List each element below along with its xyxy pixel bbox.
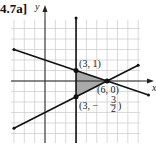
vertex-point — [74, 94, 79, 99]
vertex-point — [105, 79, 110, 84]
figure-title: 4.7a] — [0, 1, 27, 16]
lower-boundary-arrow-start-icon — [12, 127, 15, 130]
vertical-boundary-arrow-start-icon — [75, 143, 78, 144]
x-axis-label: x — [151, 82, 156, 93]
upper-boundary-arrow-end-icon — [147, 93, 150, 96]
lower-boundary-arrow-end-icon — [137, 64, 140, 67]
fraction-denominator: 2 — [111, 103, 116, 114]
inequality-graph: 4.7a] (3, 1)(6, 0)(3, −32) x y — [0, 0, 156, 143]
vertex-label: (3, 1) — [79, 58, 101, 70]
y-axis-label: y — [34, 1, 40, 12]
y-axis-arrow-icon — [43, 5, 48, 12]
vertex-point — [74, 68, 79, 73]
vertical-boundary-arrow-end-icon — [75, 17, 78, 20]
vertex-label-suffix: ) — [118, 100, 121, 112]
vertex-label: (3, − — [79, 100, 98, 112]
upper-boundary-arrow-start-icon — [12, 48, 15, 51]
